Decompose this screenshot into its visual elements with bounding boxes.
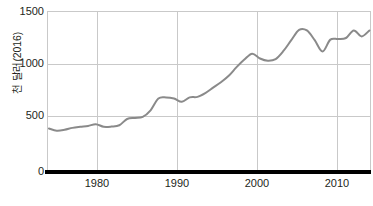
x-tick-label-2010: 2010 (314, 178, 360, 189)
series-line (47, 11, 371, 173)
x-tick-label-1980: 1980 (74, 178, 120, 189)
plot-area (47, 11, 371, 173)
y-axis-tick-labels: 1500 1000 500 0 (0, 0, 44, 206)
x-tick-label-1990: 1990 (154, 178, 200, 189)
series-path-primary (49, 29, 369, 131)
x-tick-label-2000: 2000 (234, 178, 280, 189)
y-tick-label-1500: 1500 (0, 6, 44, 17)
y-tick-label-500: 500 (0, 110, 44, 121)
y-tick-label-0: 0 (0, 166, 44, 177)
x-axis-tick-labels: 1980 1990 2000 2010 (0, 178, 373, 194)
x-axis-baseline (45, 170, 371, 174)
line-chart: 천 달러(2016) 1500 1000 500 0 1980 1990 200… (0, 0, 373, 206)
y-tick-label-1000: 1000 (0, 58, 44, 69)
